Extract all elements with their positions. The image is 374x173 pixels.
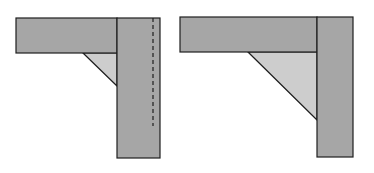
left-gusset: [83, 53, 117, 86]
left-beam: [16, 18, 117, 53]
left-joint: [16, 18, 160, 158]
right-joint: [180, 17, 353, 157]
right-gusset: [248, 52, 317, 120]
corner-joint-diagram: [0, 0, 374, 173]
right-beam: [180, 17, 317, 52]
right-post: [317, 17, 353, 157]
